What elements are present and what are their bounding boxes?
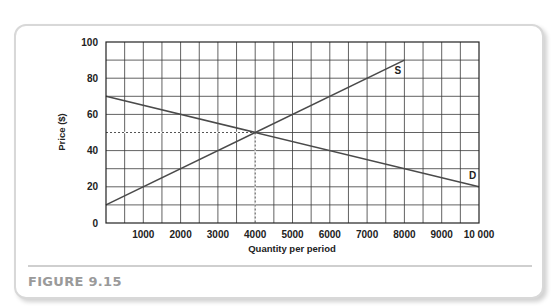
figure-caption: FIGURE 9.15 — [28, 274, 122, 289]
y-tick-label: 80 — [87, 73, 99, 84]
y-tick-label: 60 — [87, 109, 99, 120]
x-tick-label: 9000 — [431, 229, 454, 240]
x-tick-label: 7000 — [356, 229, 379, 240]
series-label-s: S — [394, 65, 401, 76]
y-axis-ticks: 020406080100 — [81, 37, 98, 229]
y-tick-label: 20 — [87, 181, 99, 192]
x-tick-label: 8000 — [393, 229, 416, 240]
y-tick-label: 40 — [87, 145, 99, 156]
y-axis-label: Price ($) — [56, 113, 67, 151]
x-tick-label: 5000 — [281, 229, 304, 240]
x-tick-label: 3000 — [207, 229, 230, 240]
x-tick-label: 1000 — [132, 229, 155, 240]
x-tick-label: 10 000 — [464, 229, 495, 240]
x-axis-ticks: 10002000300040005000600070008000900010 0… — [132, 229, 495, 240]
supply-demand-chart: 020406080100 100020003000400050006000700… — [0, 0, 554, 306]
x-axis-label: Quantity per period — [248, 243, 336, 254]
x-tick-label: 6000 — [319, 229, 342, 240]
x-tick-label: 4000 — [244, 229, 267, 240]
x-tick-label: 2000 — [169, 229, 192, 240]
y-tick-label: 100 — [81, 37, 98, 48]
y-tick-label: 0 — [92, 218, 98, 229]
series-label-d: D — [469, 170, 476, 181]
series-labels: SD — [394, 65, 476, 181]
caption-divider — [28, 265, 532, 267]
